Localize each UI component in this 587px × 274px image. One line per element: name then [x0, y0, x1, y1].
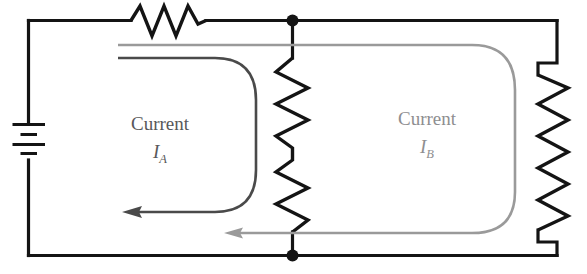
wire-right-rail-bottom: [538, 230, 557, 256]
resistor-right: [538, 75, 568, 230]
current-loop-a-symbol: IA: [152, 141, 167, 166]
current-loop-b-path: [118, 45, 515, 233]
current-loop-a-arrowhead: [122, 206, 142, 218]
current-loop-a-symbol-subscript: A: [158, 152, 167, 166]
wire-right-rail-top: [538, 21, 557, 76]
circuit-canvas: Current IA Current IB: [0, 0, 587, 274]
current-loop-a-path: [118, 58, 256, 212]
junction-node-top: [287, 15, 299, 27]
resistor-top: [131, 6, 206, 36]
junction-node-bottom: [287, 250, 299, 262]
current-loop-b-symbol-subscript: B: [426, 147, 434, 161]
current-loop-a-word: Current: [131, 113, 190, 134]
resistor-middle: [276, 58, 308, 232]
current-loop-b-word: Current: [398, 108, 457, 129]
circuit-diagram: Current IA Current IB: [0, 0, 587, 274]
battery: [13, 125, 46, 154]
current-loop-b-symbol: IB: [419, 136, 434, 161]
